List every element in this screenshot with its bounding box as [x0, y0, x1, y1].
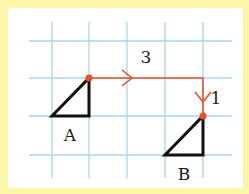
label-b: B	[178, 164, 191, 184]
triangle-a	[52, 78, 89, 116]
end-point	[200, 113, 207, 120]
translation-diagram: A B 3 1	[0, 0, 249, 194]
diagram-frame: A B 3 1	[0, 0, 249, 194]
step-label-right: 3	[141, 47, 152, 67]
start-point	[86, 75, 93, 82]
triangle-b	[165, 116, 203, 155]
translation-path	[89, 78, 203, 116]
step-label-down: 1	[211, 88, 222, 108]
label-a: A	[63, 125, 77, 145]
